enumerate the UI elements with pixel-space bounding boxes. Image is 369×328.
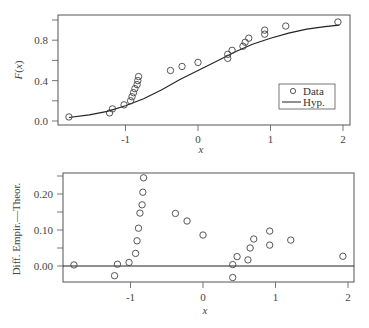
difference-point	[230, 261, 236, 267]
difference-point	[139, 202, 145, 208]
difference-point	[132, 250, 138, 256]
difference-point	[184, 218, 190, 224]
data-point	[283, 23, 289, 29]
bottom-y-axis-label: Diff. Empir.—Theor.	[10, 182, 22, 275]
difference-point	[200, 232, 206, 238]
difference-point	[126, 259, 132, 265]
data-point	[129, 94, 135, 100]
difference-point	[135, 225, 141, 231]
bottom-panel-difference: 0.000.100.20 -1012 x Diff. Empir.—Theor.	[10, 173, 354, 316]
x-tick-label: -1	[126, 291, 135, 303]
data-point	[246, 35, 252, 41]
difference-point	[251, 236, 257, 242]
legend-hyp-label: Hyp.	[303, 96, 325, 108]
bottom-x-axis-label: x	[202, 304, 208, 316]
difference-point	[267, 242, 273, 248]
difference-point	[230, 274, 236, 280]
x-tick-label: -1	[121, 133, 130, 145]
data-point	[195, 59, 201, 65]
data-point	[179, 63, 185, 69]
bottom-x-axis: -1012	[126, 282, 351, 303]
x-tick-label: 2	[345, 291, 351, 303]
x-tick-label: 0	[200, 291, 206, 303]
y-tick-label: 0.4	[34, 75, 48, 87]
top-y-axis-label: F(x)	[12, 60, 25, 80]
data-point	[167, 67, 173, 73]
difference-point	[71, 262, 77, 268]
x-tick-label: 2	[340, 133, 346, 145]
data-point	[130, 90, 136, 96]
y-tick-label: 0.8	[34, 34, 48, 46]
difference-point	[267, 228, 273, 234]
top-x-axis: -1012	[121, 125, 346, 145]
legend: Data Hyp.	[279, 84, 335, 109]
difference-point	[288, 237, 294, 243]
difference-point	[245, 257, 251, 263]
top-ylabel-close: )	[12, 60, 25, 64]
difference-points	[71, 175, 346, 281]
y-tick-label: 0.0	[34, 115, 48, 127]
data-point	[135, 73, 141, 79]
top-panel-cdf: 0.00.40.8 -1012 Data Hyp. x F(x)	[12, 15, 350, 155]
difference-point	[234, 253, 240, 259]
difference-point	[140, 175, 146, 181]
difference-point	[134, 238, 140, 244]
chart-figure: 0.00.40.8 -1012 Data Hyp. x F(x) 0.000.1…	[0, 0, 369, 328]
bottom-y-axis: 0.000.100.20	[34, 176, 63, 272]
x-tick-label: 1	[273, 291, 279, 303]
data-point	[229, 47, 235, 53]
data-point	[127, 98, 133, 104]
top-y-axis: 0.00.40.8	[34, 20, 58, 127]
difference-point	[340, 253, 346, 259]
difference-point	[172, 210, 178, 216]
difference-point	[247, 245, 253, 251]
difference-point	[111, 273, 117, 279]
y-tick-label: 0.20	[34, 188, 54, 200]
y-tick-label: 0.10	[34, 224, 54, 236]
difference-point	[140, 189, 146, 195]
top-x-axis-label: x	[198, 143, 204, 155]
difference-point	[137, 210, 143, 216]
data-point	[121, 102, 127, 108]
data-point	[262, 27, 268, 33]
y-tick-label: 0.00	[34, 260, 54, 272]
data-point	[335, 19, 341, 25]
x-tick-label: 1	[268, 133, 274, 145]
